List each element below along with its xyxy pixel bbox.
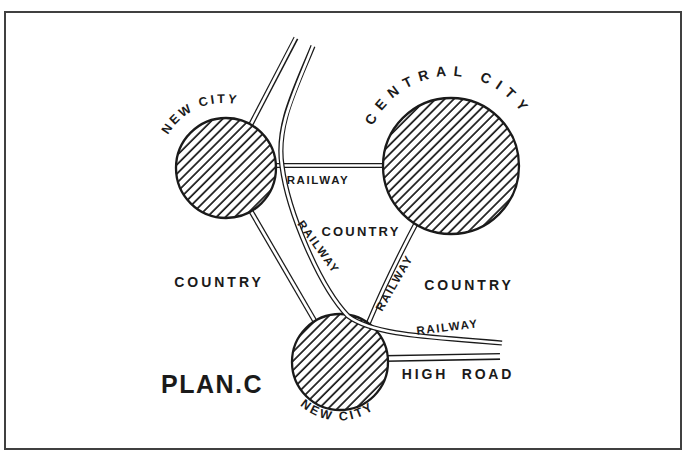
new-city-nw-circle (176, 118, 276, 218)
plan-c-diagram: NEW CITY CENTRAL CITY NEW CITY RAILWAY R… (0, 0, 686, 461)
country-east-label: COUNTRY (424, 277, 514, 293)
diagram-canvas: NEW CITY CENTRAL CITY NEW CITY RAILWAY R… (0, 0, 686, 461)
high-road-line (384, 356, 504, 358)
country-west-label: COUNTRY (174, 274, 264, 290)
railway-intercity-label: RAILWAY (287, 174, 350, 186)
high-road-label: HIGH ROAD (402, 366, 514, 382)
central-city-circle (383, 98, 519, 234)
plan-caption: PLAN.C (161, 370, 263, 398)
country-center-label: COUNTRY (321, 224, 400, 239)
